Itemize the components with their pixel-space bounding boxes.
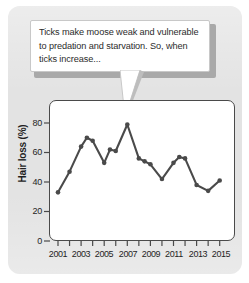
y-tick-label-60: 60 [16, 147, 42, 157]
chart-plot-frame [49, 100, 235, 241]
y-tick-label-0: 0 [16, 236, 42, 246]
x-tick-label-2015: 2015 [206, 249, 236, 259]
callout-bubble: Ticks make moose weak and vulnerable to … [30, 20, 210, 72]
figure-root: Ticks make moose weak and vulnerable to … [0, 0, 249, 283]
y-tick-label-80: 80 [16, 118, 42, 128]
y-tick-label-40: 40 [16, 177, 42, 187]
y-tick-label-20: 20 [16, 206, 42, 216]
callout-text: Ticks make moose weak and vulnerable to … [39, 26, 207, 67]
